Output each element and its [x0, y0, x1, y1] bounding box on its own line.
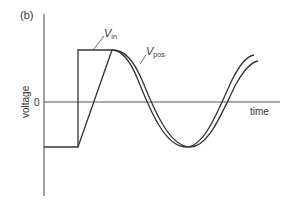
- panel-label: (b): [20, 9, 33, 21]
- voltage-time-diagram: (b) 0 voltage time Vin Vpos: [0, 0, 283, 205]
- vpos-curve: [78, 50, 258, 147]
- y-axis-label: voltage: [20, 85, 31, 118]
- vin-curve: [44, 50, 254, 147]
- x-axis-label: time: [250, 106, 269, 117]
- zero-tick-label: 0: [34, 97, 40, 108]
- vin-label: Vin: [104, 27, 117, 40]
- vin-leader: [93, 36, 104, 50]
- vpos-label: Vpos: [146, 45, 165, 59]
